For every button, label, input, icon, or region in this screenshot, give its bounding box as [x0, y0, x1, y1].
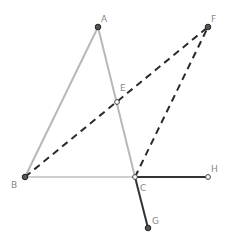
point-F[interactable]	[205, 24, 211, 30]
segment-AB[interactable]	[25, 27, 98, 177]
label-G: G	[152, 216, 159, 226]
label-H: H	[211, 164, 218, 174]
label-C: C	[140, 183, 146, 193]
label-A: A	[101, 14, 108, 24]
label-B: B	[11, 180, 17, 190]
points	[22, 24, 211, 231]
point-G[interactable]	[145, 225, 151, 231]
labels: A B C E F G H	[11, 14, 218, 226]
point-H[interactable]	[206, 175, 211, 180]
point-B[interactable]	[22, 174, 28, 180]
label-E: E	[120, 83, 126, 93]
label-F: F	[211, 14, 216, 24]
geometry-canvas: A B C E F G H	[0, 0, 227, 243]
point-C[interactable]	[133, 175, 138, 180]
segment-CF-dashed[interactable]	[135, 27, 208, 177]
point-A[interactable]	[95, 24, 101, 30]
point-E[interactable]	[115, 100, 120, 105]
segments	[25, 27, 208, 228]
